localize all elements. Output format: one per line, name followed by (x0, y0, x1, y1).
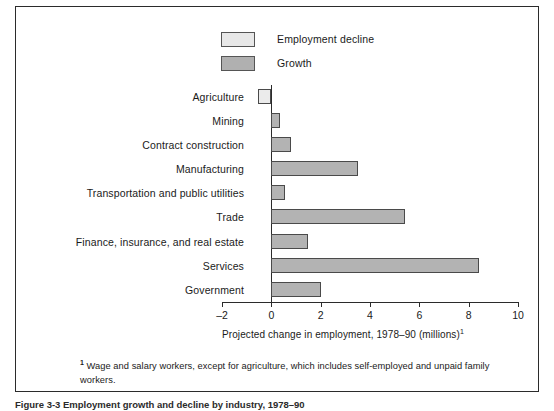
figure-caption-clipped: Figure 3-3 Employment growth and decline… (15, 398, 539, 411)
legend-swatch-icon-growth (221, 56, 255, 71)
category-label-finance-insurance-real-estate: Finance, insurance, and real estate (16, 230, 252, 254)
axis-tick-label: 2 (306, 309, 336, 321)
axis-tick (222, 302, 223, 307)
legend-label-decline: Employment decline (277, 33, 374, 45)
legend-item-employment-decline: Employment decline (221, 27, 471, 51)
axis-tick-label: 10 (503, 309, 533, 321)
footnote: 1 Wage and salary workers, except for ag… (80, 356, 525, 387)
bar-services (271, 258, 478, 273)
footnote-text: Wage and salary workers, except for agri… (80, 361, 489, 385)
axis-title: Projected change in employment, 1978–90 … (222, 328, 542, 340)
axis-tick-label: 4 (355, 309, 385, 321)
bar-trade (271, 209, 404, 224)
axis-tick (321, 302, 322, 307)
axis-tick (469, 302, 470, 307)
bar-track (222, 230, 518, 254)
legend-swatch-icon-decline (221, 32, 255, 47)
bar-track (222, 85, 518, 109)
axis-tick (370, 302, 371, 307)
axis-tick (518, 302, 519, 307)
bar-series-container (222, 85, 518, 302)
category-label-agriculture: Agriculture (16, 85, 252, 109)
bar-transportation-and-public-utilities (271, 185, 285, 200)
axis-tick-label: –2 (207, 309, 237, 321)
axis-tick-label: 8 (454, 309, 484, 321)
bar-agriculture (258, 89, 272, 104)
bar-manufacturing (271, 161, 357, 176)
category-label-trade: Trade (16, 205, 252, 229)
axis-tick-label: 6 (404, 309, 434, 321)
legend-label-growth: Growth (277, 57, 312, 69)
plot-area: Agriculture Mining Contract construction… (16, 85, 540, 330)
category-label-contract-construction: Contract construction (16, 133, 252, 157)
axis-tick-label: 0 (256, 309, 286, 321)
bar-track (222, 278, 518, 302)
bar-track (222, 133, 518, 157)
category-label-services: Services (16, 254, 252, 278)
category-label-transportation-and-public-utilities: Transportation and public utilities (16, 181, 252, 205)
bar-contract-construction (271, 137, 291, 152)
chart-legend: Employment decline Growth (221, 27, 471, 75)
bar-government (271, 282, 320, 297)
category-label-government: Government (16, 278, 252, 302)
figure-caption-text: Figure 3-3 Employment growth and decline… (15, 399, 305, 410)
category-label-mining: Mining (16, 109, 252, 133)
bar-track (222, 157, 518, 181)
bar-finance-insurance-and-real-estate (271, 234, 308, 249)
axis-title-footnote-marker: 1 (460, 328, 464, 335)
axis-tick (419, 302, 420, 307)
bar-track (222, 181, 518, 205)
figure-page: Employment decline Growth Agriculture Mi… (0, 0, 554, 411)
axis-tick (271, 302, 272, 307)
axis-title-text: Projected change in employment, 1978–90 … (222, 329, 460, 340)
bar-mining (271, 113, 280, 128)
figure-frame: Employment decline Growth Agriculture Mi… (15, 6, 539, 392)
legend-item-growth: Growth (221, 51, 471, 75)
bar-track (222, 205, 518, 229)
value-axis: –20246810 (222, 302, 518, 303)
category-axis-labels: Agriculture Mining Contract construction… (16, 85, 252, 302)
bar-track (222, 254, 518, 278)
category-label-manufacturing: Manufacturing (16, 157, 252, 181)
footnote-marker: 1 (80, 359, 84, 366)
bar-track (222, 109, 518, 133)
